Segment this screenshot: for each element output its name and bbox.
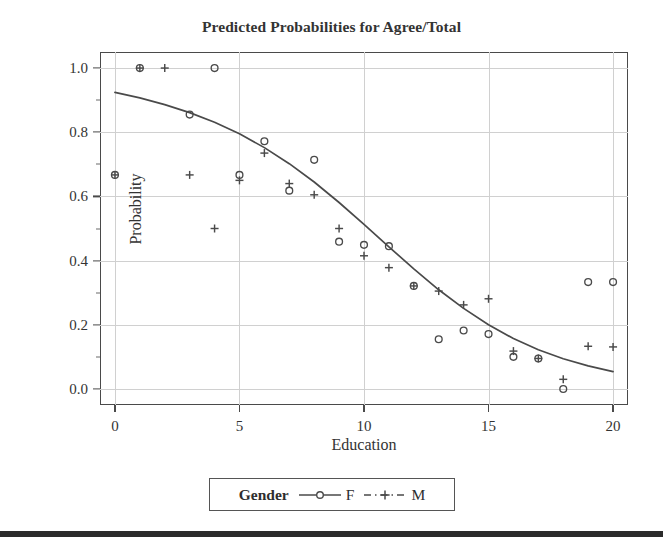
y-tick-label: 0.8 <box>18 124 88 141</box>
data-point-circle <box>585 279 592 286</box>
legend[interactable]: Gender F M <box>209 478 455 511</box>
data-point-circle <box>211 65 218 72</box>
y-tick-label: 0.4 <box>18 252 88 269</box>
y-tick-mark <box>93 324 100 325</box>
y-tick-label: 1.0 <box>18 60 88 77</box>
y-tick-mark <box>93 196 100 197</box>
legend-entry-f[interactable]: F <box>298 486 355 504</box>
x-axis-title: Education <box>100 436 628 454</box>
legend-marker-plus-icon <box>363 488 407 502</box>
legend-title: Gender <box>239 486 289 504</box>
data-point-circle <box>460 327 467 334</box>
x-tick-mark <box>612 405 613 412</box>
y-tick-mark <box>93 260 100 261</box>
x-tick-mark <box>363 405 364 412</box>
footer-bar <box>0 531 663 537</box>
y-tick-label: 0.0 <box>18 380 88 397</box>
y-tick-mark <box>93 388 100 389</box>
series-f <box>112 65 617 393</box>
legend-marker-circle-icon <box>298 488 342 502</box>
figure-canvas: Predicted Probabilities for Agree/Total … <box>0 0 663 538</box>
y-tick-label: 0.6 <box>18 188 88 205</box>
x-tick-label: 0 <box>85 418 145 435</box>
y-axis-tick-labels: 0.00.20.40.60.81.0 <box>0 52 100 405</box>
y-tick-mark <box>93 67 100 68</box>
y-axis-title: Probability <box>127 109 145 309</box>
data-point-circle <box>311 156 318 163</box>
legend-label-f: F <box>346 486 355 504</box>
data-point-circle <box>261 138 268 145</box>
x-tick-label: 20 <box>583 418 643 435</box>
y-tick-mark <box>93 132 100 133</box>
chart-title: Predicted Probabilities for Agree/Total <box>0 18 663 36</box>
legend-label-m: M <box>411 486 425 504</box>
data-point-circle <box>361 241 368 248</box>
data-point-circle <box>435 336 442 343</box>
legend-entry-m[interactable]: M <box>363 486 425 504</box>
x-tick-label: 5 <box>209 418 269 435</box>
data-point-circle <box>336 238 343 245</box>
data-point-circle <box>610 279 617 286</box>
x-tick-mark <box>488 405 489 412</box>
data-point-circle <box>286 187 293 194</box>
plot-area: Probability <box>100 52 628 405</box>
x-tick-mark <box>239 405 240 412</box>
data-layer <box>100 52 628 405</box>
x-tick-mark <box>114 405 115 412</box>
data-point-circle <box>560 386 567 393</box>
x-tick-label: 15 <box>459 418 519 435</box>
x-tick-label: 10 <box>334 418 394 435</box>
fitted-curve <box>115 92 613 371</box>
data-point-circle <box>485 331 492 338</box>
y-tick-label: 0.2 <box>18 316 88 333</box>
